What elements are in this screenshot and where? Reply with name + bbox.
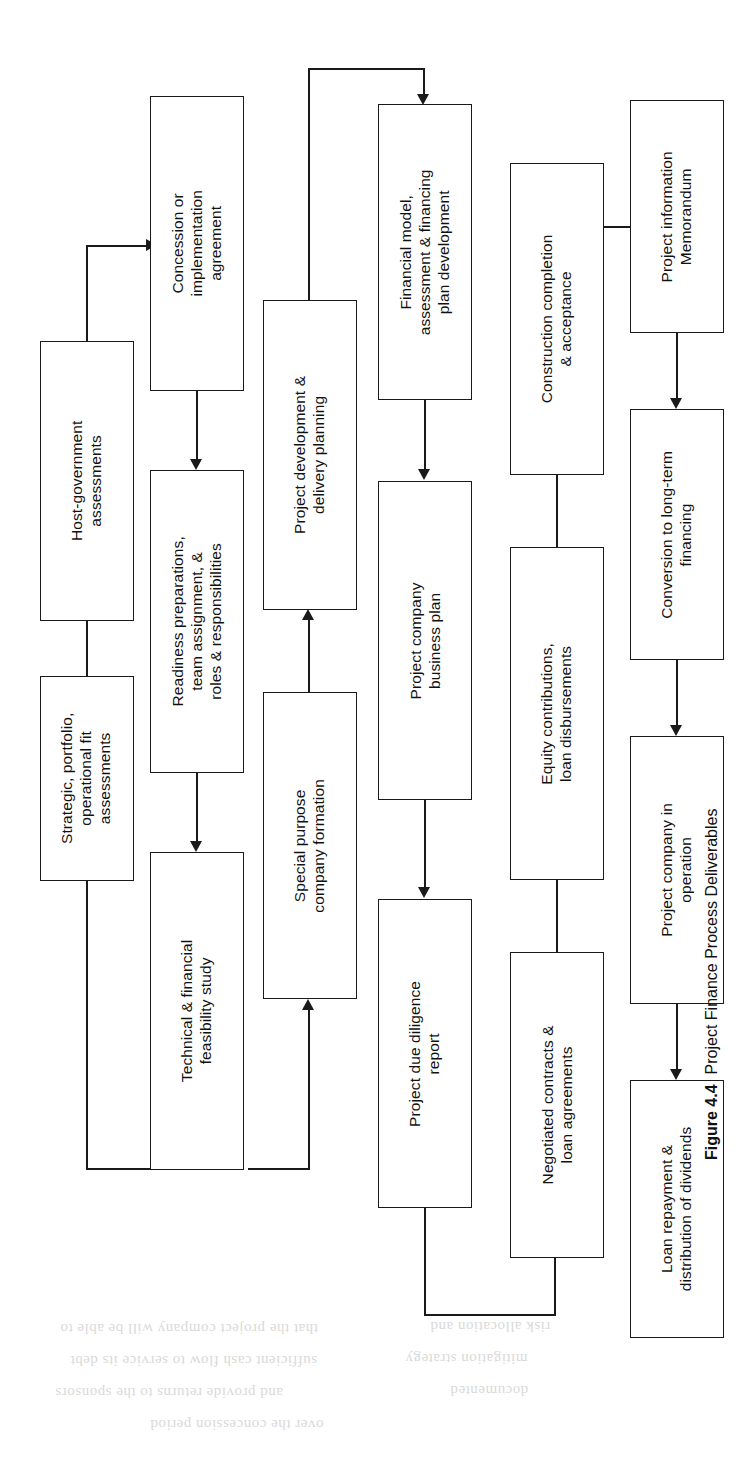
node-financial-model-assessment-financing-plan-development[interactable]: Financial model, assessment & financing … <box>378 104 472 400</box>
node-label: Conversion to long-term financing <box>658 451 696 619</box>
node-label: Project information Memorandum <box>658 151 696 282</box>
node-label: Project development & delivery planning <box>291 376 329 534</box>
connector-arrowhead <box>302 999 314 1010</box>
node-project-company-business-plan[interactable]: Project company business plan <box>378 481 472 800</box>
connector-arrowhead <box>670 398 682 409</box>
node-label: Host-government assessments <box>68 421 106 541</box>
bleed-text: risk allocation and <box>430 1318 550 1335</box>
node-project-development-delivery-planning[interactable]: Project development & delivery planning <box>263 300 357 610</box>
connector-arrowhead <box>302 609 314 620</box>
node-negotiated-contracts-loan-agreements[interactable]: Negotiated contracts & loan agreements <box>510 952 604 1258</box>
connector-arrowhead <box>670 1069 682 1080</box>
figure-title: Project Finance Process Deliverables <box>703 809 720 1075</box>
connector-line <box>424 800 426 890</box>
node-label: Equity contributions, loan disbursements <box>538 643 576 785</box>
connector-line <box>86 1168 160 1170</box>
connector-line <box>86 245 88 341</box>
connector-line <box>423 68 425 96</box>
connector-arrowhead <box>418 887 430 898</box>
connector-line <box>676 660 678 728</box>
node-construction-completion-acceptance[interactable]: Construction completion & acceptance <box>510 163 604 475</box>
bleed-text: sufficient cash flow to service its debt <box>70 1352 317 1369</box>
connector-line <box>86 245 152 247</box>
connector-line <box>86 880 88 1170</box>
connector-line <box>676 333 678 401</box>
connector-line <box>196 390 198 462</box>
connector-line <box>248 1168 310 1170</box>
node-label: Project due diligence report <box>406 981 444 1127</box>
figure-number: Figure 4.4 <box>703 1084 720 1160</box>
node-equity-contributions-loan-disbursements[interactable]: Equity contributions, loan disbursements <box>510 547 604 880</box>
node-project-information-memorandum[interactable]: Project information Memorandum <box>630 100 724 333</box>
node-label: Readiness preparations, team assignment,… <box>169 536 226 706</box>
connector-arrowhead <box>418 469 430 480</box>
connector-line <box>196 772 198 844</box>
node-label: Concession or implementation agreement <box>169 190 226 297</box>
node-technical-financial-feasibility-study[interactable]: Technical & financial feasibility study <box>150 852 244 1170</box>
connector-line <box>424 400 426 472</box>
node-special-purpose-company-formation[interactable]: Special purpose company formation <box>263 692 357 999</box>
bleed-text: documented <box>450 1382 528 1399</box>
node-strategic-portfolio-operational-fit-assessments[interactable]: Strategic, portfolio, operational fit as… <box>40 676 134 881</box>
connector-line <box>308 68 310 300</box>
node-project-due-diligence-report[interactable]: Project due diligence report <box>378 899 472 1208</box>
node-conversion-to-long-term-financing[interactable]: Conversion to long-term financing <box>630 409 724 660</box>
connector-line <box>424 1208 426 1316</box>
connector-line <box>308 620 310 692</box>
node-label: Special purpose company formation <box>291 779 329 913</box>
node-label: Construction completion & acceptance <box>538 235 576 404</box>
node-label: Project company business plan <box>406 582 444 699</box>
connector-arrowhead <box>190 459 202 470</box>
node-concession-or-implementation-agreement[interactable]: Concession or implementation agreement <box>150 96 244 391</box>
connector-line <box>308 68 425 70</box>
node-readiness-preparations[interactable]: Readiness preparations, team assignment,… <box>150 470 244 773</box>
node-label: Financial model, assessment & financing … <box>397 169 454 335</box>
bleed-text: over the concession period <box>150 1416 323 1433</box>
node-label: Negotiated contracts & loan agreements <box>538 1025 576 1184</box>
bleed-text: and provide returns to the sponsors <box>55 1384 283 1401</box>
connector-line <box>424 1314 556 1316</box>
connector-arrowhead <box>190 841 202 852</box>
node-host-government-assessments[interactable]: Host-government assessments <box>40 341 134 621</box>
connector-line <box>86 620 88 676</box>
node-label: Project company in operation <box>658 803 696 937</box>
node-label: Loan repayment & distribution of dividen… <box>658 1127 696 1292</box>
connector-line <box>676 1004 678 1072</box>
figure-caption: Figure 4.4Project Finance Process Delive… <box>703 809 721 1160</box>
bleed-text: mitigation strategy <box>405 1350 527 1367</box>
figure-page: that the project company will be able to… <box>0 0 747 1461</box>
bleed-text: that the project company will be able to <box>60 1320 318 1337</box>
connector-arrowhead <box>670 725 682 736</box>
node-label: Strategic, portfolio, operational fit as… <box>59 713 116 844</box>
connector-line <box>556 880 558 952</box>
connector-line <box>554 1258 556 1316</box>
connector-line <box>308 1010 310 1170</box>
node-label: Technical & financial feasibility study <box>178 940 216 1083</box>
connector-line <box>556 475 558 547</box>
